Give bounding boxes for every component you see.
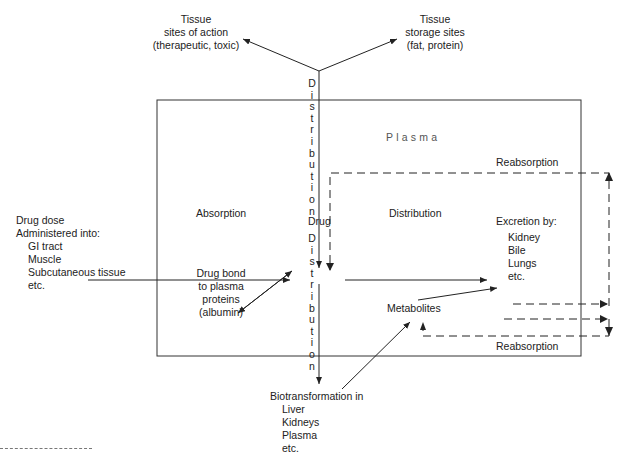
arrow-to-tissue-action: [243, 39, 319, 71]
drug-dose-block: Drug dose Administered into: GI tract Mu…: [16, 214, 125, 292]
reabsorption-top-label: Reabsorption: [496, 156, 558, 169]
excretion-routes: Kidney Bile Lungs etc.: [496, 231, 557, 283]
tissue-action-label: Tissue sites of action (therapeutic, tox…: [145, 13, 247, 52]
tissue-storage-label: Tissue storage sites (fat, protein): [400, 13, 470, 52]
drug-center-node: Drug: [308, 215, 331, 228]
arrow-to-tissue-storage: [319, 39, 397, 71]
protein-binding-block: Drug bond to plasma proteins (albumin): [188, 267, 254, 319]
metabolites-label: Metabolites: [387, 302, 441, 315]
administration-sites: GI tract Muscle Subcutaneous tissue etc.: [16, 240, 125, 292]
biotransformation-sites: Liver Kidneys Plasma etc.: [270, 403, 363, 455]
metabolites-to-excretion-arrow: [418, 288, 497, 300]
plasma-label: Plasma: [386, 131, 440, 143]
reabsorption-bottom-label: Reabsorption: [496, 340, 558, 353]
distribution-vertical-top: D i s t r i b u t i o n: [307, 78, 317, 217]
distribution-vertical-bottom: D i s t r i b u t i o n: [307, 233, 317, 372]
reabsorption-top-dashed: [330, 173, 609, 306]
excretion-block: Excretion by: Kidney Bile Lungs etc.: [496, 215, 557, 283]
distribution-label: Distribution: [389, 207, 442, 220]
footnote-divider: [0, 448, 92, 449]
biotransformation-block: Biotransformation in Liver Kidneys Plasm…: [270, 390, 363, 455]
absorption-label: Absorption: [196, 207, 246, 220]
